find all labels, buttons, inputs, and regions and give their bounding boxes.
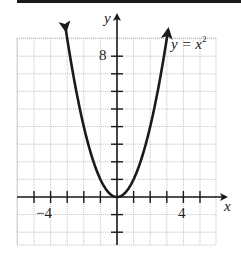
- x-axis-label: x: [223, 198, 231, 214]
- x-tick-label-neg4: −4: [36, 205, 52, 221]
- y-axis-label: y: [102, 10, 111, 26]
- parabola-chart: y x 8 −4 4 y = x2: [0, 0, 241, 255]
- equation-label: y = x2: [169, 34, 206, 52]
- y-tick-label-8: 8: [99, 47, 107, 63]
- x-tick-label-4: 4: [178, 205, 186, 221]
